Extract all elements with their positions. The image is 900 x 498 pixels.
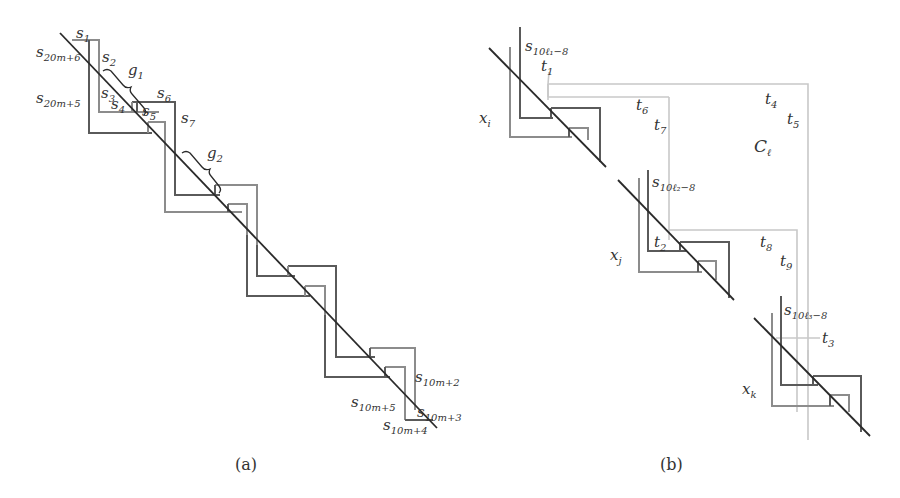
- label-t8: t8: [760, 233, 772, 253]
- stair-block-3: [247, 235, 336, 330]
- label-s10m3: s10m+3: [417, 403, 462, 423]
- label-s2: s2: [102, 48, 116, 68]
- diagonal-line-xj: [618, 180, 734, 300]
- figure-canvas: s1 s20m+6 s2 g1 s20m+5 s3 s4 s5 s6 s7 g2…: [0, 0, 900, 498]
- label-Cl: Cℓ: [754, 136, 771, 158]
- label-t4: t4: [765, 90, 777, 110]
- label-t7: t7: [654, 116, 667, 136]
- caption-a: (a): [235, 455, 257, 474]
- label-s10l1-8: s10ℓ₁−8: [525, 37, 568, 57]
- label-t3: t3: [822, 329, 834, 349]
- label-s10m2: s10m+2: [415, 368, 460, 388]
- label-t2: t2: [654, 233, 666, 253]
- label-t6: t6: [636, 96, 649, 116]
- label-g1: g1: [128, 61, 144, 81]
- label-s1: s1: [76, 24, 90, 44]
- label-s5: s5: [142, 102, 156, 122]
- diagonal-line-a: [60, 33, 437, 428]
- label-xi: xi: [479, 109, 491, 129]
- label-s10l2-8: s10ℓ₂−8: [652, 173, 695, 193]
- label-t9: t9: [780, 252, 793, 272]
- label-g2: g2: [207, 144, 223, 164]
- label-xk: xk: [742, 380, 757, 400]
- label-s6: s6: [157, 84, 172, 104]
- label-s7: s7: [181, 109, 196, 129]
- caption-b: (b): [660, 455, 683, 474]
- label-s20m5: s20m+5: [36, 89, 81, 109]
- label-s10l3-8: s10ℓ₃−8: [784, 301, 827, 321]
- label-xj: xj: [610, 246, 622, 266]
- panel-a-diagram: [60, 33, 437, 428]
- label-s10m5: s10m+5: [351, 393, 396, 413]
- panel-b-diagram: [489, 27, 870, 440]
- label-s20m6: s20m+6: [36, 43, 81, 63]
- label-t1: t1: [541, 57, 553, 77]
- label-t5: t5: [787, 110, 799, 130]
